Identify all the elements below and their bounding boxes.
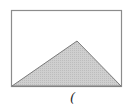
figure-caption-label: ( xyxy=(70,91,75,104)
diagram-canvas xyxy=(0,0,130,110)
